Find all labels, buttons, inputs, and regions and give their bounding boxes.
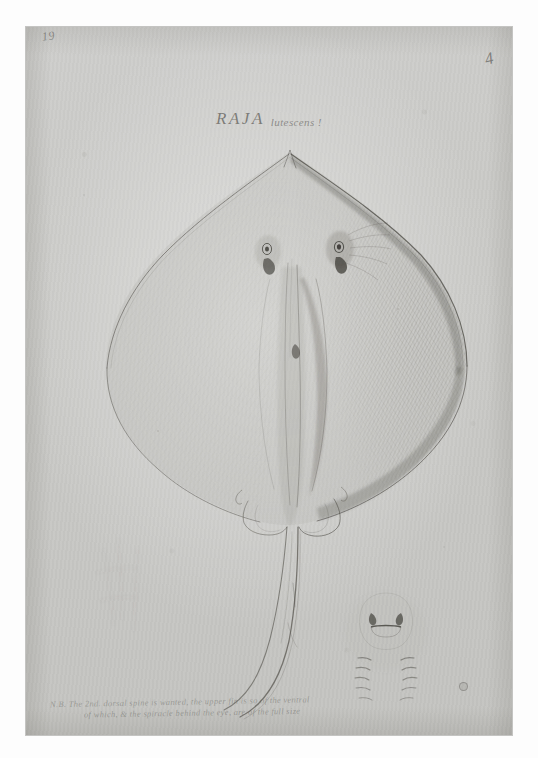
bottom-inscription: N.B. The 2nd. dorsal spine is wanted, th… [50, 695, 494, 717]
mouth-detail-sketch [344, 593, 428, 700]
right-edge-shadow [290, 155, 463, 376]
right-shoulder-shadow [300, 277, 327, 497]
right-spiracle [335, 257, 347, 274]
wing-base-hooks [236, 487, 347, 504]
page-number-top-left: 19 [41, 28, 56, 45]
paper-specks [83, 194, 445, 548]
right-shoulder-crease [312, 279, 327, 491]
right-pelvic-fin [299, 499, 340, 536]
tail [224, 527, 300, 719]
title-species: lutescens ! [271, 116, 322, 128]
right-nostril [396, 613, 403, 625]
right-wing-hatching [276, 147, 486, 537]
left-leading-edge [107, 154, 289, 368]
stingray-body [86, 147, 486, 719]
left-shoulder-crease [259, 279, 274, 489]
drawing-sheet: 19 4 RAJAlutescens ! [26, 27, 512, 735]
right-wing-cross-hatching [276, 147, 486, 537]
left-wing-shading [86, 147, 316, 537]
title-genus: RAJA [216, 109, 265, 128]
central-body-shade [277, 267, 305, 527]
left-eye [255, 235, 281, 269]
left-gill-slits [355, 658, 372, 700]
left-wing-outline [107, 368, 260, 522]
inscription-line-2: of which, & the spiracle behind the eye,… [84, 702, 494, 720]
central-pore [292, 344, 300, 359]
right-eye-shading [346, 223, 391, 280]
left-spiracle [263, 258, 275, 275]
inscription-line-1: N.B. The 2nd. dorsal spine is wanted, th… [50, 691, 494, 711]
pectoral-disc-wash [106, 153, 466, 525]
detail-head-outline [359, 593, 412, 650]
stingray-drawing [26, 27, 512, 735]
snout-apex [284, 150, 296, 168]
right-eye [326, 231, 354, 267]
right-wing-outline [317, 366, 467, 521]
tail-sting [293, 583, 295, 607]
collection-stamp [459, 682, 468, 691]
mouth [371, 626, 401, 628]
page-number-top-right: 4 [483, 48, 497, 70]
right-gill-slits [400, 658, 417, 700]
specimen-title: RAJAlutescens ! [26, 109, 512, 129]
left-pelvic-fin [243, 501, 287, 535]
right-margin-shadow [317, 367, 464, 520]
left-nostril [369, 613, 376, 625]
faint-preliminary-sketch [96, 539, 138, 631]
dorsal-midline [285, 259, 300, 507]
right-leading-edge [291, 154, 467, 366]
plate-canvas: 19 4 RAJAlutescens ! [0, 0, 538, 758]
